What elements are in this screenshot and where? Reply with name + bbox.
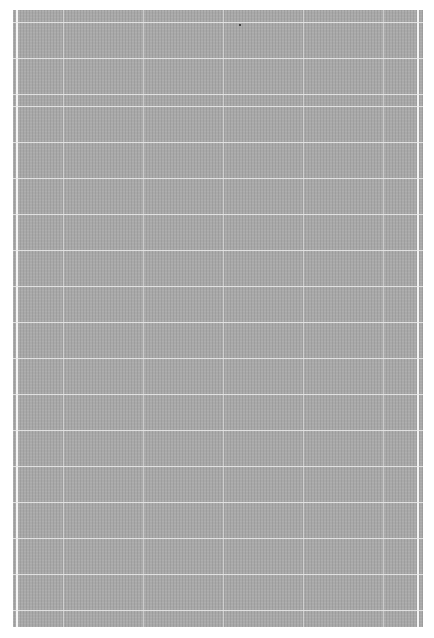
grid-line-horizontal (13, 94, 423, 95)
grid-line-horizontal (13, 58, 423, 59)
grid-line-horizontal (13, 502, 423, 503)
grid-line-vertical (143, 10, 144, 627)
grid-line-horizontal (13, 394, 423, 395)
scan-speck (239, 24, 241, 26)
grid-sheet (13, 10, 423, 627)
grid-line-vertical (383, 10, 384, 627)
grid-line-horizontal (13, 22, 423, 23)
grid-line-horizontal (13, 358, 423, 359)
grid-line-horizontal (13, 430, 423, 431)
grid-line-vertical (63, 10, 64, 627)
sheet-right-edge (417, 10, 419, 627)
grid-line-horizontal (13, 322, 423, 323)
grid-line-horizontal (13, 538, 423, 539)
sheet-left-edge (16, 10, 18, 627)
grid-line-horizontal (13, 106, 423, 107)
grid-line-horizontal (13, 178, 423, 179)
grid-line-horizontal (13, 610, 423, 611)
grid-line-horizontal (13, 574, 423, 575)
grid-line-horizontal (13, 250, 423, 251)
grid-line-vertical (303, 10, 304, 627)
grid-line-horizontal (13, 466, 423, 467)
grid-line-horizontal (13, 214, 423, 215)
grid-line-vertical (223, 10, 224, 627)
grid-line-horizontal (13, 142, 423, 143)
grid-line-horizontal (13, 286, 423, 287)
